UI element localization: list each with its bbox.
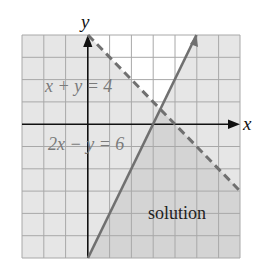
solid-line-label: 2x − y = 6 <box>48 134 124 154</box>
inequality-graph: y x x + y = 4 2x − y = 6 solution <box>0 0 261 274</box>
solution-label: solution <box>148 203 206 223</box>
x-axis-label: x <box>242 113 252 134</box>
y-axis-label: y <box>79 11 90 32</box>
dashed-line-label: x + y = 4 <box>44 76 112 96</box>
